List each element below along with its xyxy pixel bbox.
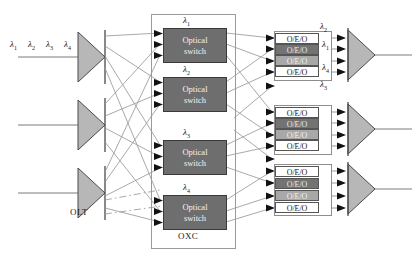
optical-switch-1-line1: Optical (182, 35, 207, 46)
switch-lambda-3: λ3 (183, 128, 190, 139)
optical-switch-4-line1: Optical (182, 202, 207, 213)
output-fiber-line (375, 55, 412, 189)
oeo-box-3-2[interactable]: O/E/O (275, 178, 319, 189)
oeo-box-1-2[interactable]: O/E/O (275, 44, 319, 55)
optical-switch-4-line2: switch (184, 213, 206, 224)
oeo-group-3: O/E/O O/E/O O/E/O O/E/O (274, 164, 332, 216)
output-mux-triangle (348, 30, 375, 214)
oeo-box-1-3[interactable]: O/E/O (275, 55, 319, 66)
optical-switch-2-line1: Optical (182, 84, 207, 95)
optical-switch-3-line1: Optical (182, 147, 207, 158)
optical-switch-1[interactable]: Optical switch (163, 28, 227, 63)
input-lambda-3: λ3 (46, 40, 53, 51)
diagram-canvas: λ1 λ2 λ3 λ4 OLT λ1 Optical switch λ2 Opt… (0, 0, 420, 262)
input-lambda-1: λ1 (10, 40, 17, 51)
optical-switch-4[interactable]: Optical switch (163, 195, 227, 230)
optical-switch-2-line2: switch (184, 95, 206, 106)
switch-lambda-1: λ1 (183, 16, 190, 27)
oeo-box-3-1[interactable]: O/E/O (275, 166, 319, 177)
oeo-box-2-2[interactable]: O/E/O (275, 118, 319, 129)
switch-lambda-4: λ4 (183, 183, 190, 194)
oeo-out-lambda-1-1: λ2 (320, 22, 327, 33)
oeo-out-lambda-1-2: λ1 (322, 40, 329, 51)
optical-switch-3-line2: switch (184, 158, 206, 169)
oeo-out-lambda-1-4: λ4 (322, 63, 329, 74)
oeo-box-2-4[interactable]: O/E/O (275, 140, 319, 151)
oeo-box-1-4[interactable]: O/E/O (275, 66, 319, 77)
olt-demux-triangle (78, 32, 105, 218)
oeo-group-2: O/E/O O/E/O O/E/O O/E/O (274, 105, 332, 155)
switch-lambda-2: λ2 (183, 65, 190, 76)
oeo-box-3-4[interactable]: O/E/O (275, 202, 319, 213)
oeo-floating-lambda: λ3 (320, 80, 327, 91)
oxc-caption: OXC (178, 232, 198, 241)
oeo-box-1-1[interactable]: O/E/O (275, 33, 319, 44)
optical-switch-2[interactable]: Optical switch (163, 77, 227, 112)
oeo-box-2-3[interactable]: O/E/O (275, 129, 319, 140)
olt-caption: OLT (70, 208, 88, 217)
oeo-box-3-3[interactable]: O/E/O (275, 190, 319, 201)
mux-input-arrow (337, 35, 346, 212)
oeo-box-2-1[interactable]: O/E/O (275, 107, 319, 118)
input-lambda-2: λ2 (28, 40, 35, 51)
optical-switch-3[interactable]: Optical switch (163, 140, 227, 175)
optical-switch-1-line2: switch (184, 46, 206, 57)
input-lambda-4: λ4 (64, 40, 71, 51)
olt-input-line (18, 57, 78, 193)
